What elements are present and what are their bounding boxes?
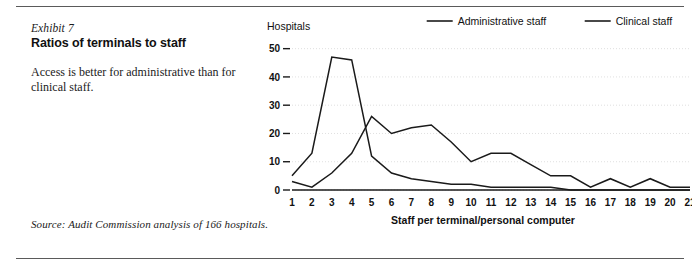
x-axis-title: Staff per terminal/personal computer — [391, 214, 575, 226]
y-tick-label: 50 — [269, 43, 281, 54]
x-tick-label: 12 — [505, 197, 517, 208]
x-tick-label: 17 — [605, 197, 617, 208]
gridlines-group — [292, 49, 690, 190]
chart-container: 01020304050 1234567891011121314151617181… — [262, 8, 692, 238]
source-note: Source: Audit Commission analysis of 166… — [31, 218, 268, 230]
x-tick-label: 18 — [625, 197, 637, 208]
bottom-divider — [16, 258, 684, 259]
y-axis-title: Hospitals — [267, 20, 310, 32]
y-tick-label: 10 — [269, 156, 281, 167]
x-tick-label: 21 — [684, 197, 692, 208]
y-tick-label: 20 — [269, 128, 281, 139]
x-tick-label: 7 — [409, 197, 415, 208]
line-chart: 01020304050 1234567891011121314151617181… — [262, 8, 692, 238]
x-tick-label: 1 — [289, 197, 295, 208]
y-tick-label: 0 — [274, 185, 280, 196]
x-tick-label: 9 — [448, 197, 454, 208]
exhibit-text-column: Exhibit 7 Ratios of terminals to staff A… — [31, 22, 256, 94]
legend-label-2: Clinical staff — [616, 15, 672, 27]
y-tick-label: 40 — [269, 72, 281, 83]
x-axis-ticks-group: 123456789101112131415161718192021 — [289, 197, 692, 208]
x-tick-label: 14 — [545, 197, 557, 208]
top-divider — [16, 6, 684, 7]
x-tick-label: 4 — [349, 197, 355, 208]
page-title: Ratios of terminals to staff — [31, 36, 256, 51]
x-tick-label: 2 — [309, 197, 315, 208]
chart-legend: Administrative staffClinical staff — [427, 15, 672, 27]
x-tick-label: 20 — [665, 197, 677, 208]
series-line-clinical-staff — [292, 117, 690, 188]
exhibit-label: Exhibit 7 — [31, 22, 256, 35]
x-tick-label: 8 — [429, 197, 435, 208]
x-tick-label: 16 — [585, 197, 597, 208]
legend-label-1: Administrative staff — [458, 15, 547, 27]
y-tick-label: 30 — [269, 100, 281, 111]
x-tick-label: 11 — [486, 197, 497, 208]
x-tick-label: 19 — [645, 197, 657, 208]
x-tick-label: 3 — [329, 197, 335, 208]
x-tick-label: 15 — [565, 197, 577, 208]
exhibit-description: Access is better for administrative than… — [31, 65, 249, 94]
x-tick-label: 10 — [466, 197, 478, 208]
y-axis-ticks-group: 01020304050 — [269, 43, 290, 195]
x-tick-label: 6 — [389, 197, 395, 208]
x-tick-label: 5 — [369, 197, 375, 208]
x-tick-label: 13 — [525, 197, 537, 208]
exhibit-panel: Exhibit 7 Ratios of terminals to staff A… — [0, 0, 700, 274]
